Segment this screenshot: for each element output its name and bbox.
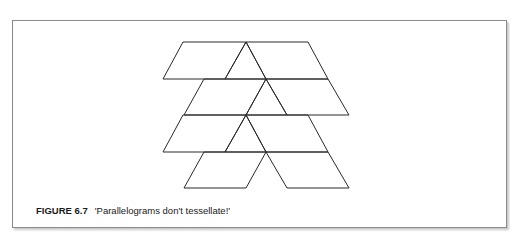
row-2-center-triangle — [246, 79, 287, 115]
row-2-left-parallelogram — [184, 79, 266, 115]
row-1-center-triangle — [225, 42, 266, 79]
row-3-center-triangle — [225, 115, 266, 152]
figure-caption: FIGURE 6.7'Parallelograms don't tessella… — [36, 205, 230, 216]
row-4-left-parallelogram — [184, 152, 266, 188]
row-3-right-parallelogram — [246, 115, 328, 152]
row-4-right-parallelogram — [266, 152, 349, 188]
figure-label: FIGURE 6.7 — [36, 205, 88, 216]
figure-caption-text: 'Parallelograms don't tessellate!' — [95, 205, 230, 216]
tessellation-diagram — [0, 0, 522, 240]
row-3-left-parallelogram — [163, 115, 246, 152]
row-1-left-parallelogram — [163, 42, 246, 79]
row-1-right-parallelogram — [246, 42, 328, 79]
row-2-right-parallelogram — [266, 79, 349, 115]
